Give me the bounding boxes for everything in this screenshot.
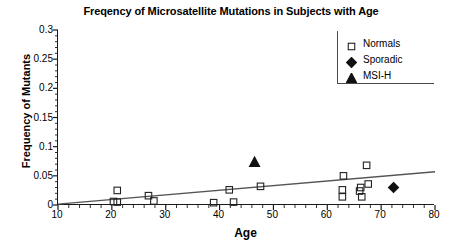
marker-square [348,43,355,50]
marker-square [230,199,237,206]
legend-item-normals[interactable]: Normals [346,35,400,51]
y-tick-label: 0.3 [1,25,53,35]
x-axis-tick-labels: 1020304050607080 [57,210,434,224]
marker-triangle [250,157,260,166]
marker-square [339,187,346,194]
marker-diamond [346,57,356,67]
legend-diamond-icon [346,54,357,65]
marker-square [363,162,370,169]
legend-triangle-icon [346,70,357,81]
marker-square [210,199,217,206]
legend-square-icon [346,38,357,49]
series-sporadic [388,182,398,192]
x-tick-label: 70 [360,210,400,220]
chart-figure: Freqency of Microsatellite Mutations in … [0,0,462,249]
x-tick-label: 10 [37,210,77,220]
legend-item-label: Normals [363,38,400,49]
x-tick-label: 50 [252,210,292,220]
marker-square [339,194,346,201]
x-tick-label: 60 [306,210,346,220]
y-axis-title: Frequency of Mutants [20,36,32,186]
series-msi-h [250,157,260,166]
series-normals [110,162,371,206]
marker-square [365,181,372,188]
x-tick-label: 40 [199,210,239,220]
marker-square [340,173,347,180]
y-tick-label: 0 [1,200,53,210]
x-tick-label: 30 [145,210,185,220]
x-tick-label: 80 [414,210,454,220]
legend-item-msi-h[interactable]: MSI-H [346,67,391,83]
legend-item-label: Sporadic [363,54,402,65]
x-tick-label: 20 [91,210,131,220]
marker-triangle [346,73,356,82]
legend-item-sporadic[interactable]: Sporadic [346,51,402,67]
chart-title: Freqency of Microsatellite Mutations in … [0,5,462,17]
marker-diamond [388,182,398,192]
marker-square [114,187,121,194]
x-axis-title: Age [57,226,434,240]
chart-legend: NormalsSporadicMSI-H [337,31,434,84]
legend-item-label: MSI-H [363,70,391,81]
